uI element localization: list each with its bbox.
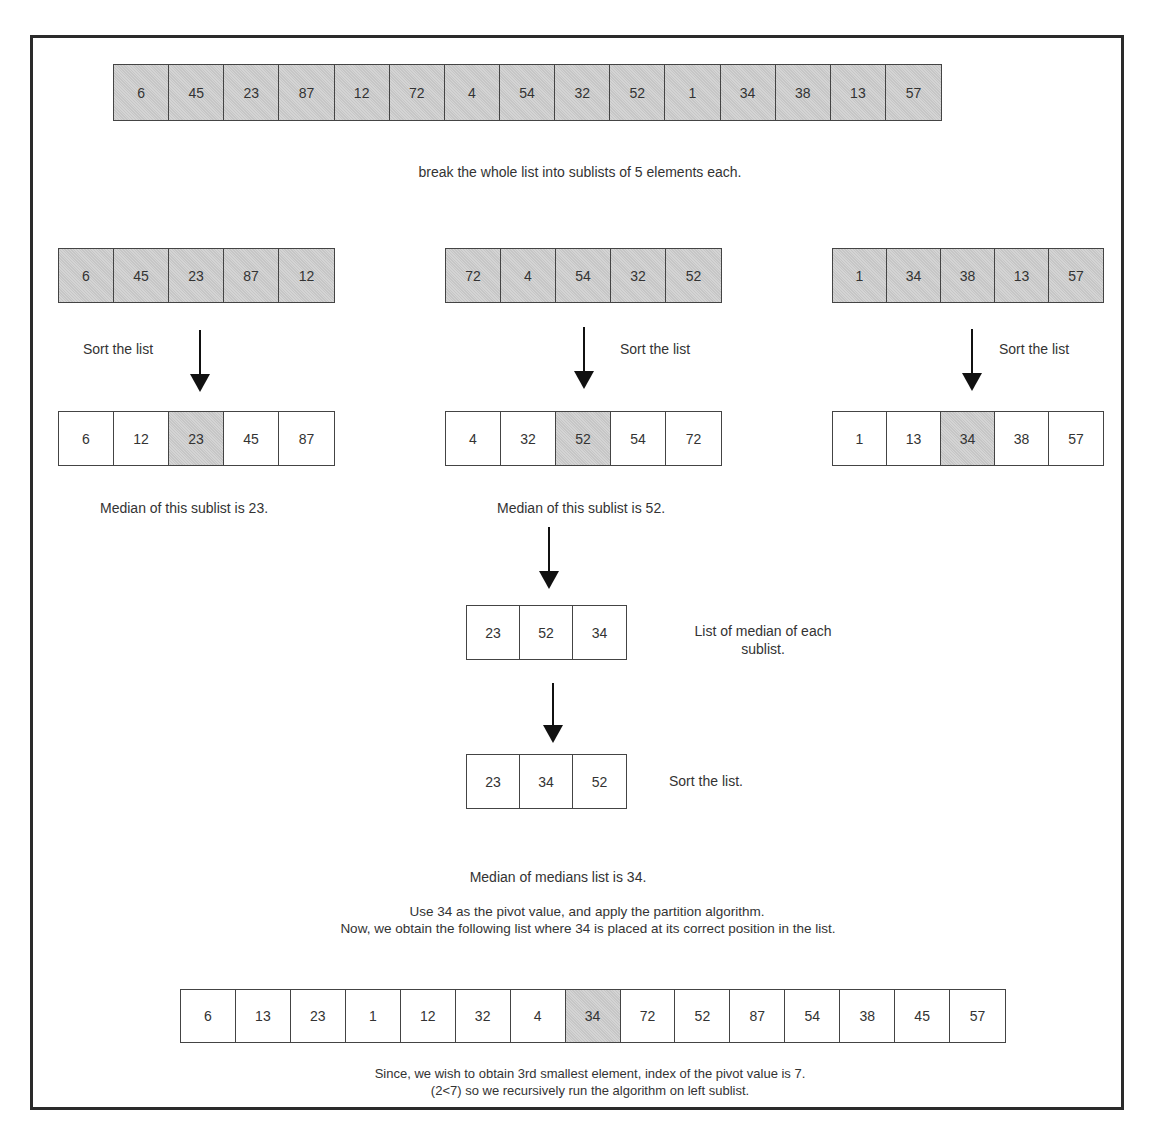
list-cell: 23 xyxy=(467,755,520,808)
arrow-down-icon xyxy=(543,683,563,745)
list-cell: 13 xyxy=(236,990,291,1042)
arrow-down-icon xyxy=(574,327,594,389)
sublist-1-sort-label: Sort the list xyxy=(83,341,153,357)
sorted-medians-label: Sort the list. xyxy=(669,773,743,789)
list-cell: 34 xyxy=(520,755,573,808)
list-cell: 54 xyxy=(611,412,666,465)
sublist-3-unsorted: 134381357 xyxy=(832,248,1104,303)
list-cell: 4 xyxy=(446,412,501,465)
sublist-2-sort-label: Sort the list xyxy=(620,341,690,357)
list-cell: 12 xyxy=(401,990,456,1042)
list-cell: 54 xyxy=(556,249,611,302)
list-cell: 34 xyxy=(566,990,621,1042)
list-cell: 4 xyxy=(445,65,500,120)
list-cell: 23 xyxy=(291,990,346,1042)
list-cell: 34 xyxy=(941,412,995,465)
list-cell: 38 xyxy=(776,65,831,120)
list-cell: 6 xyxy=(181,990,236,1042)
list-cell: 32 xyxy=(555,65,610,120)
list-cell: 1 xyxy=(346,990,401,1042)
list-cell: 6 xyxy=(59,249,114,302)
medians-list: 235234 xyxy=(466,605,627,660)
list-cell: 34 xyxy=(887,249,941,302)
list-cell: 23 xyxy=(169,412,224,465)
sublist-3-sort-label: Sort the list xyxy=(999,341,1069,357)
list-cell: 12 xyxy=(279,249,334,302)
list-cell: 52 xyxy=(610,65,665,120)
sorted-medians-list: 233452 xyxy=(466,754,627,809)
list-cell: 23 xyxy=(169,249,224,302)
list-cell: 1 xyxy=(833,249,887,302)
list-cell: 52 xyxy=(675,990,730,1042)
arrow-down-icon xyxy=(539,527,559,589)
sublist-2-unsorted: 724543252 xyxy=(445,248,722,303)
conclusion-line1: Since, we wish to obtain 3rd smallest el… xyxy=(0,1066,1160,1081)
list-cell: 54 xyxy=(785,990,840,1042)
list-cell: 52 xyxy=(666,249,721,302)
split-caption: break the whole list into sublists of 5 … xyxy=(0,164,1160,180)
list-cell: 57 xyxy=(886,65,941,120)
pivot-text-line2: Now, we obtain the following list where … xyxy=(0,921,1160,936)
list-cell: 87 xyxy=(224,249,279,302)
list-cell: 13 xyxy=(831,65,886,120)
list-cell: 38 xyxy=(995,412,1049,465)
list-cell: 38 xyxy=(941,249,995,302)
list-cell: 34 xyxy=(573,606,626,659)
sublist-2-sorted: 432525472 xyxy=(445,411,722,466)
sublist-3-sorted: 113343857 xyxy=(832,411,1104,466)
list-cell: 87 xyxy=(279,65,334,120)
diagram-frame xyxy=(30,35,1124,1110)
list-cell: 72 xyxy=(446,249,501,302)
list-cell: 54 xyxy=(500,65,555,120)
list-cell: 87 xyxy=(279,412,334,465)
list-cell: 12 xyxy=(114,412,169,465)
arrow-down-icon xyxy=(190,330,210,392)
list-cell: 6 xyxy=(114,65,169,120)
list-cell: 45 xyxy=(169,65,224,120)
list-cell: 13 xyxy=(995,249,1049,302)
list-cell: 23 xyxy=(467,606,520,659)
sublist-1-median-caption: Median of this sublist is 23. xyxy=(100,500,268,516)
medians-label-line1: List of median of each xyxy=(695,623,832,639)
sublist-1-sorted: 612234587 xyxy=(58,411,335,466)
conclusion-line2: (2<7) so we recursively run the algorith… xyxy=(0,1083,1160,1098)
sublist-2-median-caption: Median of this sublist is 52. xyxy=(497,500,665,516)
list-cell: 32 xyxy=(456,990,511,1042)
list-cell: 45 xyxy=(114,249,169,302)
list-cell: 57 xyxy=(1049,412,1103,465)
list-cell: 34 xyxy=(721,65,776,120)
list-cell: 52 xyxy=(556,412,611,465)
medians-label-line2: sublist. xyxy=(741,641,785,657)
list-cell: 45 xyxy=(895,990,950,1042)
list-cell: 1 xyxy=(665,65,720,120)
partitioned-list: 613231123243472528754384557 xyxy=(180,989,1006,1043)
medians-list-label: List of median of each sublist. xyxy=(680,622,846,658)
list-cell: 52 xyxy=(573,755,626,808)
list-cell: 12 xyxy=(335,65,390,120)
list-cell: 6 xyxy=(59,412,114,465)
list-cell: 57 xyxy=(950,990,1005,1042)
list-cell: 13 xyxy=(887,412,941,465)
median-of-medians-text: Median of medians list is 34. xyxy=(0,869,1116,885)
arrow-down-icon xyxy=(962,329,982,391)
list-cell: 72 xyxy=(666,412,721,465)
list-cell: 57 xyxy=(1049,249,1103,302)
list-cell: 32 xyxy=(611,249,666,302)
list-cell: 72 xyxy=(621,990,676,1042)
list-cell: 4 xyxy=(511,990,566,1042)
list-cell: 23 xyxy=(224,65,279,120)
pivot-text-line1: Use 34 as the pivot value, and apply the… xyxy=(0,904,1160,919)
list-cell: 52 xyxy=(520,606,573,659)
list-cell: 1 xyxy=(833,412,887,465)
list-cell: 38 xyxy=(840,990,895,1042)
list-cell: 32 xyxy=(501,412,556,465)
original-list: 645238712724543252134381357 xyxy=(113,64,942,121)
list-cell: 72 xyxy=(390,65,445,120)
list-cell: 45 xyxy=(224,412,279,465)
sublist-1-unsorted: 645238712 xyxy=(58,248,335,303)
list-cell: 4 xyxy=(501,249,556,302)
list-cell: 87 xyxy=(730,990,785,1042)
